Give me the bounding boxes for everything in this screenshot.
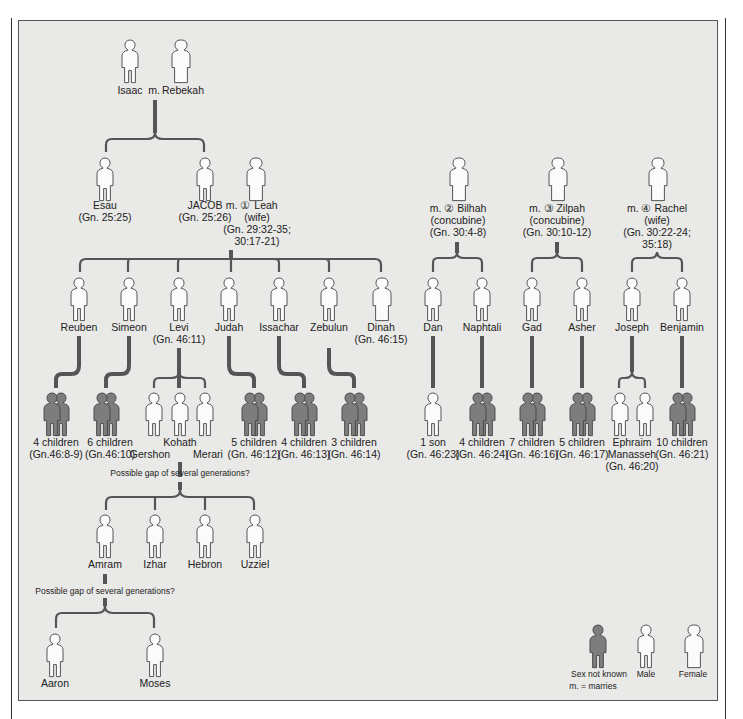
dinah-ref: (Gn. 46:15) <box>354 333 407 345</box>
tribe-dan: Dan <box>423 278 442 333</box>
reuben-children-icon <box>44 393 69 436</box>
children-ref: (Gn.46:10) <box>85 448 135 460</box>
connector <box>433 253 482 272</box>
leah-figure-icon <box>247 158 265 201</box>
ephraim-label: Ephraim <box>612 436 651 448</box>
izhar-label: Izhar <box>143 558 167 570</box>
izhar-figure-icon <box>147 515 163 558</box>
merari-figure-icon <box>197 393 213 436</box>
uzziel-figure-icon <box>247 515 263 558</box>
connector <box>279 336 304 388</box>
merari-label: Merari <box>193 448 223 460</box>
connector <box>329 348 354 388</box>
esau-figure-icon <box>97 158 113 201</box>
children-ref: (Gn. 46:16) <box>505 448 558 460</box>
zilpah-ref: (Gn. 30:10-12) <box>523 226 591 238</box>
uzziel-label: Uzziel <box>241 558 270 570</box>
moses-figure-icon <box>147 634 163 677</box>
hebron-label: Hebron <box>188 558 223 570</box>
children-count: 5 children <box>231 436 277 448</box>
children-count: 4 children <box>33 436 79 448</box>
marries-label: m. <box>148 84 160 96</box>
esau-ref: (Gn. 25:25) <box>78 211 131 223</box>
connector <box>532 253 582 272</box>
legend-female-label: Female <box>679 669 708 679</box>
dinah-label: Dinah <box>367 321 395 333</box>
connector <box>80 259 381 272</box>
bilhah-role: (concubine) <box>431 214 486 226</box>
kohath-label: Kohath <box>163 436 196 448</box>
family-tree: Isaac m. Rebekah Esau (Gn. 25:25) JACOB … <box>0 0 743 719</box>
benjamin-figure-icon <box>674 278 690 321</box>
connector <box>619 372 645 388</box>
children-ref: (Gn.46:8-9) <box>29 448 83 460</box>
tribe-judah: Judah <box>215 278 244 333</box>
children-count: 7 children <box>509 436 555 448</box>
benjamin-label: Benjamin <box>660 321 704 333</box>
bilhah-label: m. ② Bilhah <box>430 202 487 214</box>
rebekah-figure-icon <box>172 40 190 83</box>
asher-children-icon <box>570 393 595 436</box>
judah-figure-icon <box>221 278 237 321</box>
connector <box>56 606 154 628</box>
children-ref: (Gn. 46:17) <box>555 448 608 460</box>
leah-role: (wife) <box>244 211 270 223</box>
joseph-figure-icon <box>624 278 640 321</box>
amram-figure-icon <box>97 515 113 558</box>
isaac-label: Isaac <box>117 84 142 96</box>
children-count: 4 children <box>459 436 505 448</box>
amram-label: Amram <box>88 558 122 570</box>
simeon-children-icon <box>94 393 119 436</box>
children-ref: (Gn. 46:12) <box>227 448 280 460</box>
jacob-figure-icon <box>197 158 213 201</box>
children-count: 6 children <box>87 436 133 448</box>
tribe-issachar: Issachar <box>259 278 299 333</box>
tribe-naphtali: Naphtali <box>463 278 502 333</box>
naphtali-figure-icon <box>474 278 490 321</box>
male-icon <box>638 625 654 668</box>
rachel-ref-1: (Gn. 30:22-24; <box>623 226 691 238</box>
issachar-children-icon <box>292 393 317 436</box>
gad-children-icon <box>520 393 545 436</box>
tribe-levi: Levi (Gn. 46:11) <box>153 278 205 345</box>
gad-figure-icon <box>524 278 540 321</box>
tribe-simeon: Simeon <box>111 278 147 333</box>
judah-children-icon <box>242 393 267 436</box>
rebekah-label: Rebekah <box>162 84 204 96</box>
simeon-figure-icon <box>121 278 137 321</box>
connector <box>56 336 79 388</box>
tribe-dinah: Dinah (Gn. 46:15) <box>354 278 407 345</box>
children-count: 1 son <box>420 436 446 448</box>
naphtali-label: Naphtali <box>463 321 502 333</box>
asher-figure-icon <box>574 278 590 321</box>
aaron-figure-icon <box>47 634 63 677</box>
jacob-marries-label: m. ① <box>226 199 251 211</box>
judah-label: Judah <box>215 321 244 333</box>
leah-ref-2: 30:17-21) <box>235 235 280 247</box>
ephraim-figure-icon <box>612 393 628 436</box>
gershon-label: Gershon <box>130 448 170 460</box>
zilpah-role: (concubine) <box>530 214 585 226</box>
connector <box>632 252 682 272</box>
legend: Sex not known Male Female m. = marries <box>569 625 707 691</box>
tribe-zebulun: Zebulun <box>310 278 348 333</box>
zebulun-children-icon <box>342 393 367 436</box>
zilpah-figure-icon <box>549 158 567 201</box>
levi-label: Levi <box>169 321 188 333</box>
gad-label: Gad <box>522 321 542 333</box>
reuben-label: Reuben <box>61 321 98 333</box>
connector <box>106 336 129 388</box>
legend-unknown-label: Sex not known <box>571 669 627 679</box>
zebulun-figure-icon <box>321 278 337 321</box>
manasseh-label: Manasseh <box>608 448 657 460</box>
tribe-benjamin: Benjamin <box>660 278 704 333</box>
tribe-joseph: Joseph <box>615 278 649 333</box>
children-ref: (Gn. 46:14) <box>327 448 380 460</box>
issachar-label: Issachar <box>259 321 299 333</box>
rachel-ref-2: 35:18) <box>642 238 672 250</box>
reuben-figure-icon <box>71 278 87 321</box>
moses-label: Moses <box>140 677 171 689</box>
children-count: 10 children <box>656 436 708 448</box>
jacob-label: JACOB <box>187 199 222 211</box>
joseph-sons-ref: (Gn. 46:20) <box>605 460 658 472</box>
